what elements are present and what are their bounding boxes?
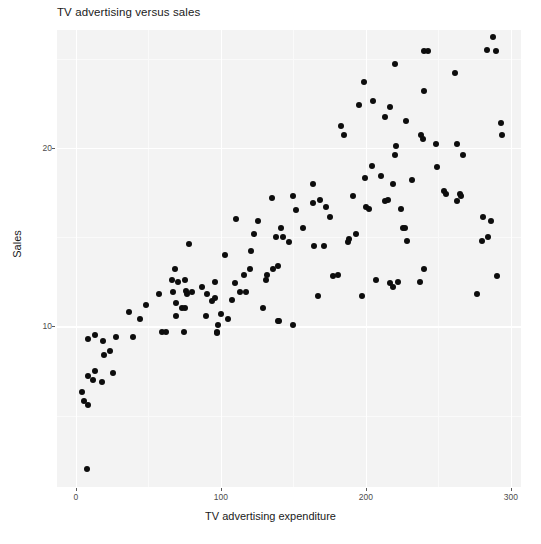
scatter-point xyxy=(92,332,98,338)
scatter-point xyxy=(454,141,460,147)
scatter-point xyxy=(443,191,449,197)
scatter-point xyxy=(204,291,210,297)
scatter-point xyxy=(390,181,396,187)
scatter-point xyxy=(241,272,247,278)
scatter-point xyxy=(409,177,415,183)
scatter-point xyxy=(186,241,192,247)
scatter-point xyxy=(232,280,238,286)
gridline-major-vertical xyxy=(366,30,367,487)
scatter-point xyxy=(243,289,249,295)
scatter-point xyxy=(175,279,181,285)
scatter-point xyxy=(214,330,220,336)
scatter-point xyxy=(169,277,175,283)
scatter-point xyxy=(454,198,460,204)
scatter-point xyxy=(85,402,91,408)
scatter-point xyxy=(499,132,505,138)
scatter-point xyxy=(369,163,375,169)
scatter-point xyxy=(85,336,91,342)
scatter-point xyxy=(485,234,491,240)
scatter-point xyxy=(280,234,286,240)
scatter-point xyxy=(181,329,187,335)
x-axis-tick-mark xyxy=(76,488,77,491)
scatter-point xyxy=(310,200,316,206)
scatter-point xyxy=(460,152,466,158)
scatter-point xyxy=(203,313,209,319)
scatter-point xyxy=(490,34,496,40)
scatter-point xyxy=(346,236,352,242)
scatter-point xyxy=(126,309,132,315)
scatter-point xyxy=(425,48,431,54)
scatter-point xyxy=(263,277,269,283)
scatter-point xyxy=(225,316,231,322)
gridline-major-horizontal xyxy=(57,326,521,327)
scatter-point xyxy=(494,273,500,279)
scatter-point xyxy=(417,279,423,285)
scatter-point xyxy=(130,334,136,340)
scatter-point xyxy=(156,291,162,297)
x-axis-tick-mark xyxy=(511,488,512,491)
scatter-point xyxy=(260,305,266,311)
scatter-point xyxy=(215,322,221,328)
gridline-minor-vertical xyxy=(293,30,294,487)
scatter-point xyxy=(484,47,490,53)
scatter-point xyxy=(90,377,96,383)
y-axis-label: Sales xyxy=(11,164,23,324)
scatter-point xyxy=(212,279,218,285)
scatter-point xyxy=(137,316,143,322)
scatter-point xyxy=(273,234,279,240)
scatter-point xyxy=(173,313,179,319)
scatter-point xyxy=(488,218,494,224)
scatter-point xyxy=(392,61,398,67)
scatter-point xyxy=(276,318,282,324)
scatter-point xyxy=(199,284,205,290)
scatter-point xyxy=(113,334,119,340)
scatter-point xyxy=(251,231,257,237)
scatter-point xyxy=(218,311,224,317)
x-axis-tick-label: 200 xyxy=(359,492,373,502)
scatter-point xyxy=(393,143,399,149)
chart-title: TV advertising versus sales xyxy=(57,6,200,18)
scatter-point xyxy=(452,70,458,76)
scatter-point xyxy=(403,118,409,124)
scatter-point xyxy=(182,277,188,283)
scatter-point xyxy=(321,243,327,249)
scatter-point xyxy=(493,48,499,54)
scatter-point xyxy=(404,238,410,244)
scatter-point xyxy=(293,207,299,213)
scatter-point xyxy=(237,289,243,295)
scatter-point xyxy=(362,175,368,181)
scatter-point xyxy=(92,368,98,374)
scatter-point xyxy=(143,302,149,308)
y-axis-tick-label: 10 xyxy=(43,321,52,331)
scatter-point xyxy=(172,266,178,272)
scatter-point xyxy=(110,370,116,376)
x-axis-tick-mark xyxy=(366,488,367,491)
scatter-point xyxy=(353,231,359,237)
scatter-point xyxy=(99,379,105,385)
scatter-point xyxy=(170,289,176,295)
scatter-point xyxy=(402,225,408,231)
scatter-point xyxy=(247,266,253,272)
scatter-point xyxy=(173,300,179,306)
scatter-point xyxy=(79,389,85,395)
scatter-point xyxy=(100,338,106,344)
scatter-point xyxy=(390,284,396,290)
scatter-point xyxy=(275,263,281,269)
scatter-point xyxy=(373,277,379,283)
x-axis-tick-mark xyxy=(221,488,222,491)
scatter-point xyxy=(350,193,356,199)
y-axis-tick-mark xyxy=(52,148,55,149)
scatter-point xyxy=(229,297,235,303)
scatter-point xyxy=(338,123,344,129)
scatter-point xyxy=(269,195,275,201)
scatter-point xyxy=(382,114,388,120)
scatter-point xyxy=(84,466,90,472)
scatter-point xyxy=(387,104,393,110)
scatter-point xyxy=(212,295,218,301)
x-axis-tick-label: 300 xyxy=(504,492,518,502)
gridline-major-horizontal xyxy=(57,148,521,149)
scatter-point xyxy=(366,206,372,212)
scatter-point xyxy=(255,218,261,224)
scatter-point xyxy=(290,193,296,199)
scatter-point xyxy=(378,173,384,179)
